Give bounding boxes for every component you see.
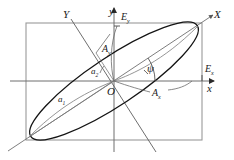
label-text: x (207, 82, 212, 94)
label-semi-a1: a1 (58, 95, 65, 106)
label-axis-x: x (207, 83, 212, 94)
figure-canvas: YyEyXAya2ψExOAxxa1 (0, 0, 234, 160)
label-subscript: x (158, 93, 161, 100)
label-axis-y: y (109, 6, 114, 17)
amplitude-Ax-leader (168, 81, 192, 90)
label-text: Y (63, 8, 69, 20)
label-axis-X: X (214, 9, 221, 20)
amplitude-Ax-marker (114, 81, 150, 92)
label-text: X (214, 8, 221, 20)
label-origin-O: O (107, 86, 115, 97)
label-text: y (109, 5, 114, 17)
label-subscript: 2 (96, 72, 99, 78)
semi-axis-a1-line (29, 81, 114, 137)
label-axis-Y: Y (63, 9, 69, 20)
label-text: O (107, 85, 115, 97)
label-subscript: 1 (63, 100, 66, 106)
label-amp-Ax: Ax (152, 88, 161, 100)
label-field-Ex: Ex (205, 64, 214, 76)
label-semi-a2: a2 (91, 67, 98, 78)
label-angle-psi: ψ (147, 63, 154, 74)
label-amp-Ay: Ay (102, 44, 111, 56)
label-field-Ey: Ey (121, 12, 130, 24)
label-subscript: x (211, 69, 214, 76)
label-text: ψ (147, 62, 154, 74)
polarization-ellipse-svg (0, 0, 234, 160)
label-subscript: y (108, 49, 111, 56)
label-subscript: y (127, 17, 130, 24)
